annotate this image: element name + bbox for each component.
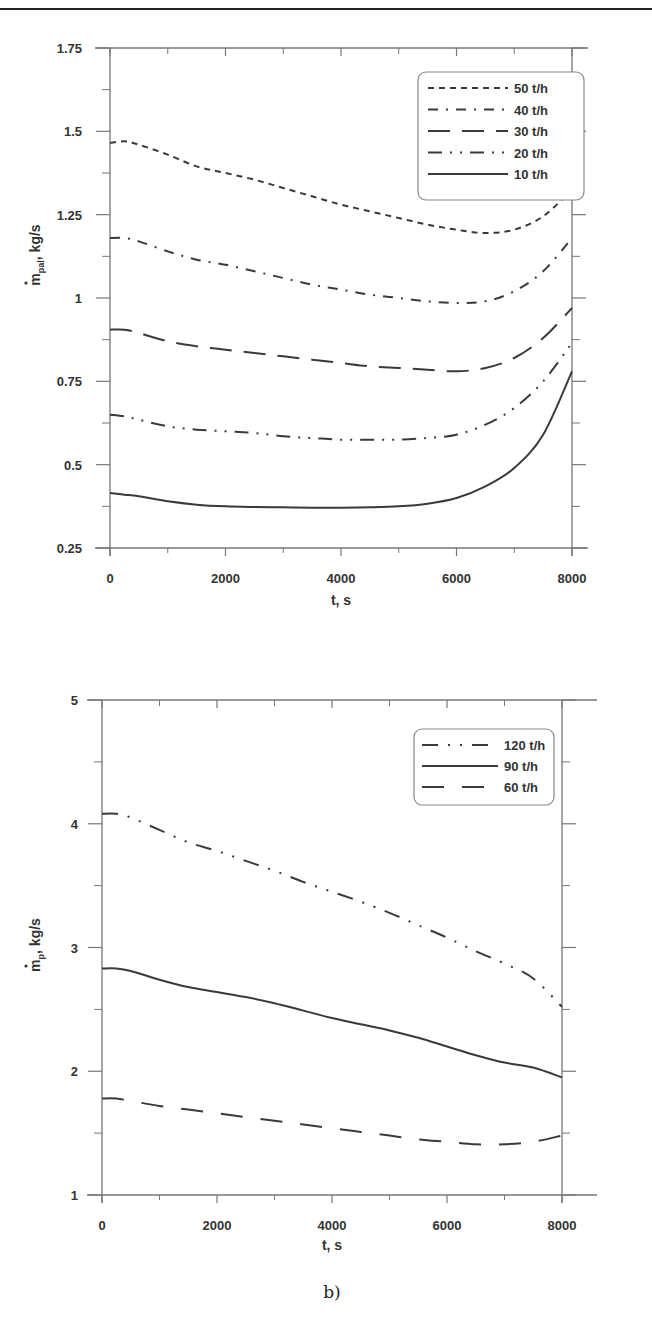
series-line [102, 968, 562, 1077]
svg-text:6000: 6000 [442, 571, 471, 586]
legend-entry: 90 t/h [504, 759, 538, 774]
svg-text:1.75: 1.75 [57, 41, 82, 56]
svg-text:mpal, kg/s: mpal, kg/s [27, 224, 46, 285]
series-line [110, 238, 572, 303]
svg-text:8000: 8000 [558, 571, 587, 586]
legend: 120 t/h90 t/h60 t/h [414, 729, 554, 805]
svg-text:1: 1 [75, 291, 82, 306]
svg-text:0: 0 [98, 1218, 105, 1233]
svg-text:8000: 8000 [548, 1218, 577, 1233]
svg-text:0.5: 0.5 [64, 458, 82, 473]
data-series [102, 814, 562, 1145]
svg-text:0: 0 [106, 571, 113, 586]
y-axis-title: mpal, kg/s [24, 224, 46, 285]
legend-entry: 50 t/h [514, 81, 548, 96]
svg-text:4000: 4000 [318, 1218, 347, 1233]
svg-text:4000: 4000 [327, 571, 356, 586]
chart-a: 020004000600080000.250.50.7511.251.51.75… [0, 0, 652, 640]
svg-text:5: 5 [71, 693, 78, 708]
series-line [102, 1098, 562, 1144]
legend: 50 t/h40 t/h30 t/h20 t/h10 t/h [418, 72, 584, 200]
svg-text:6000: 6000 [433, 1218, 462, 1233]
chart-b: 0200040006000800012345 120 t/h90 t/h60 t… [0, 640, 652, 1331]
svg-text:0.75: 0.75 [57, 374, 82, 389]
svg-text:3: 3 [71, 941, 78, 956]
legend-entry: 30 t/h [514, 124, 548, 139]
svg-text:1.5: 1.5 [64, 124, 82, 139]
svg-text:1: 1 [71, 1188, 78, 1203]
svg-text:1.25: 1.25 [57, 208, 82, 223]
legend-entry: 10 t/h [514, 167, 548, 182]
svg-text:4: 4 [71, 817, 79, 832]
series-line [102, 814, 562, 1007]
svg-text:0.25: 0.25 [57, 541, 82, 556]
caption-b: b) [323, 1282, 341, 1302]
series-line [110, 343, 572, 440]
series-line [110, 308, 572, 371]
svg-text:mp, kg/s: mp, kg/s [27, 918, 46, 972]
legend-entry: 60 t/h [504, 780, 538, 795]
legend-entry: 40 t/h [514, 103, 548, 118]
svg-text:2000: 2000 [203, 1218, 232, 1233]
legend-entry: 120 t/h [504, 738, 545, 753]
legend-entry: 20 t/h [514, 146, 548, 161]
svg-text:2: 2 [71, 1064, 78, 1079]
x-axis-title: t, s [331, 592, 351, 608]
svg-text:2000: 2000 [211, 571, 240, 586]
y-axis-title: mp, kg/s [24, 918, 46, 972]
x-axis-title: t, s [322, 1237, 342, 1253]
